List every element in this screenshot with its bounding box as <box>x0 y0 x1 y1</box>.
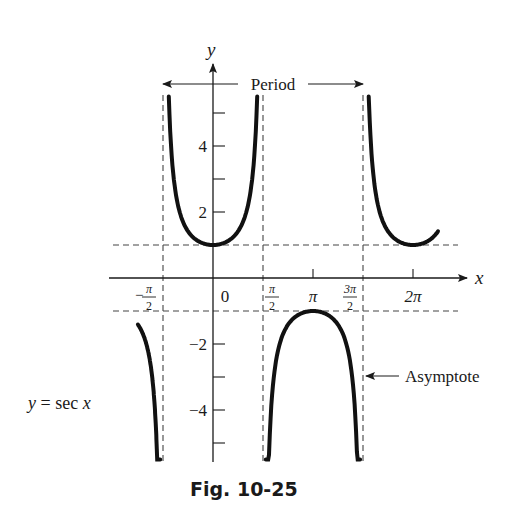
frac-den: 2 <box>146 299 152 313</box>
frac-num: π <box>146 282 153 296</box>
period-label: Period <box>251 75 296 94</box>
y-tick-label: −4 <box>189 401 208 420</box>
frac-num: π <box>269 282 276 296</box>
y-tick-label: −2 <box>189 335 207 354</box>
x-tick-label: 0 <box>221 287 230 306</box>
y-tick-label: 2 <box>199 203 208 222</box>
frac-den: 2 <box>347 299 353 313</box>
figure-caption: Fig. 10-25 <box>190 478 298 500</box>
frac-den: 2 <box>269 299 275 313</box>
y-axis-label: y <box>205 39 216 60</box>
sec-chart: 42−2−4−π20π2π3π22πxy PeriodAsymptotey = … <box>0 0 518 514</box>
x-axis-label: x <box>474 267 484 288</box>
y-tick-label: 4 <box>199 137 208 156</box>
x-tick-label: 2π <box>404 287 422 306</box>
reference-lines <box>113 95 458 463</box>
sec-branch <box>369 97 438 246</box>
asymptote-label: Asymptote <box>405 367 480 386</box>
axes <box>109 64 467 462</box>
sec-branch <box>138 325 160 460</box>
minus-sign: − <box>135 287 143 303</box>
sec-branch <box>266 311 360 460</box>
x-tick-label: π <box>309 287 318 306</box>
function-label: y = sec x <box>26 393 91 413</box>
frac-num: 3π <box>343 282 357 296</box>
